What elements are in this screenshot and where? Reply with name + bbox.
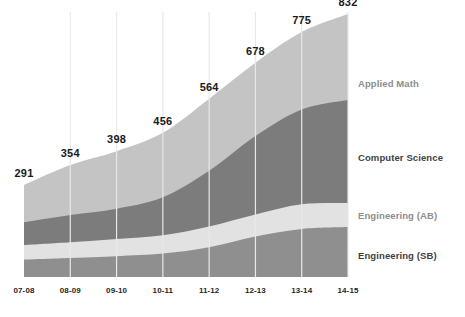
x-tick-08-09: 08-09 bbox=[60, 286, 81, 295]
series-label-engineering-sb: Engineering (SB) bbox=[358, 250, 437, 261]
data-label-07-08: 291 bbox=[15, 167, 34, 179]
series-label-computer-science: Computer Science bbox=[358, 152, 443, 163]
x-tick-07-08: 07-08 bbox=[14, 286, 35, 295]
series-label-engineering-ab: Engineering (AB) bbox=[358, 210, 437, 221]
series-label-applied-math: Applied Math bbox=[358, 78, 419, 89]
data-label-12-13: 678 bbox=[246, 45, 265, 57]
data-label-10-11: 456 bbox=[153, 115, 172, 127]
data-label-11-12: 564 bbox=[200, 81, 219, 93]
data-label-08-09: 354 bbox=[61, 147, 80, 159]
x-tick-14-15: 14-15 bbox=[338, 286, 359, 295]
stacked-area-chart: 291354398456564678775832 07-0808-0909-10… bbox=[0, 0, 465, 317]
x-tick-11-12: 11-12 bbox=[199, 286, 220, 295]
x-tick-09-10: 09-10 bbox=[106, 286, 127, 295]
data-label-09-10: 398 bbox=[107, 133, 126, 145]
x-tick-13-14: 13-14 bbox=[291, 286, 312, 295]
data-label-14-15: 832 bbox=[339, 0, 358, 8]
area-bands bbox=[24, 14, 348, 277]
data-label-13-14: 775 bbox=[292, 14, 311, 26]
x-tick-12-13: 12-13 bbox=[245, 286, 266, 295]
x-tick-10-11: 10-11 bbox=[153, 286, 174, 295]
